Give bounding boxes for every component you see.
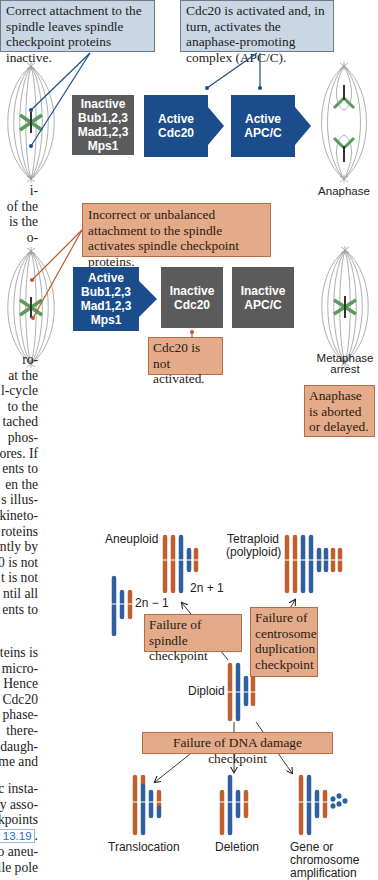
label-translocation: Translocation <box>108 841 180 854</box>
label-gene-chromosome-amplification: Gene or chromosome amplification <box>290 841 358 880</box>
chromosomes-diploid <box>226 662 260 722</box>
chromosomes-deletion <box>218 774 254 836</box>
chromosomes-amplification <box>297 774 353 836</box>
callout-failure-centrosome-checkpoint: Failure of centrosome duplication checkp… <box>250 607 318 677</box>
callout-failure-dna-damage-checkpoint: Failure of DNA damage checkpoint <box>142 732 333 754</box>
callout-failure-spindle-checkpoint: Failure of spindle checkpoint <box>144 614 242 652</box>
chromosomes-translocation <box>131 774 167 836</box>
label-diploid: Diploid <box>188 685 225 698</box>
callout-text: Failure of spindle checkpoint <box>149 617 208 663</box>
callout-text: Failure of centrosome duplication checkp… <box>255 610 317 672</box>
label-deletion: Deletion <box>215 841 259 854</box>
